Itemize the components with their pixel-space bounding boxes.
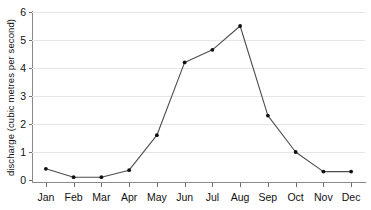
data-point-marker [266,114,270,118]
discharge-line-chart: discharge (cubic metres per second) 0123… [0,0,371,210]
x-axis-tick [101,183,102,187]
data-point-marker [294,150,298,154]
data-point-marker [238,24,242,28]
x-axis-tick [46,183,47,187]
x-axis-tick [129,183,130,187]
data-point-marker [127,168,131,172]
discharge-markers [44,24,353,179]
x-axis-tick [185,183,186,187]
data-point-marker [210,48,214,52]
data-point-marker [321,170,325,174]
data-series-layer [0,0,371,210]
data-point-marker [99,175,103,179]
data-point-marker [183,61,187,65]
x-axis-tick [268,183,269,187]
data-point-marker [155,133,159,137]
data-point-marker [349,170,353,174]
x-axis-tick [351,183,352,187]
x-axis-tick [240,183,241,187]
x-axis-tick [157,183,158,187]
x-axis-tick [74,183,75,187]
x-axis-tick [296,183,297,187]
x-axis-tick-label: Dec [331,191,371,203]
x-axis-tick [212,183,213,187]
x-axis-tick [323,183,324,187]
data-point-marker [72,175,76,179]
discharge-line [46,26,351,177]
data-point-marker [44,167,48,171]
